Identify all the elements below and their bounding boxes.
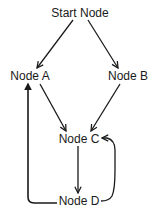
edge-start-to-a (37, 20, 73, 68)
node-b: Node B (108, 69, 148, 83)
edge-d-to-c (101, 138, 115, 201)
edge-start-to-b (88, 20, 118, 68)
edge-a-to-c (40, 84, 66, 131)
node-c: Node C (59, 132, 100, 146)
node-start: Start Node (51, 6, 108, 20)
node-d: Node D (59, 194, 100, 208)
edges-layer (0, 0, 153, 213)
flow-diagram: Start Node Node A Node B Node C Node D (0, 0, 153, 213)
edge-d-to-a (28, 84, 57, 203)
edge-b-to-c (91, 84, 120, 131)
node-a: Node A (10, 69, 49, 83)
